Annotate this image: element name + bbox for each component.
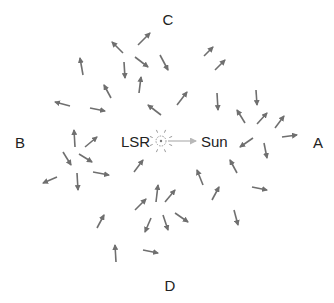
star-velocity-arrow (43, 177, 57, 183)
star-velocity-arrow (135, 199, 146, 210)
star-velocity-arrow (104, 85, 111, 98)
star-velocity-arrow (282, 135, 297, 137)
star-velocity-arrow (197, 170, 203, 185)
star-velocity-arrow (156, 185, 158, 202)
star-velocity-arrow (230, 160, 237, 173)
star-velocity-arrow (257, 113, 267, 124)
star-velocity-arrow (148, 105, 161, 115)
star-velocity-arrow (165, 190, 175, 202)
star-velocity-arrow (74, 130, 75, 147)
lsr-ray-icon (150, 144, 153, 145)
label-d: D (165, 277, 176, 294)
lsr-ray-icon (156, 130, 157, 133)
velocity-diagram: C D B A LSR Sun (0, 0, 334, 303)
label-b: B (15, 134, 25, 151)
star-velocity-arrow (143, 250, 158, 253)
label-c: C (163, 11, 174, 28)
label-a: A (313, 134, 323, 151)
star-velocity-arrow (135, 57, 148, 67)
lsr-ray-icon (164, 149, 165, 152)
lsr-ray-icon (150, 136, 153, 137)
star-velocity-arrow (139, 77, 141, 93)
star-velocity-arrow (240, 138, 253, 147)
star-velocity-arrow (177, 92, 187, 105)
star-velocity-arrow (77, 173, 78, 190)
star-velocity-arrow (163, 215, 168, 230)
star-velocity-arrow (215, 60, 225, 70)
label-lsr: LSR (121, 133, 150, 150)
star-velocity-arrow (138, 33, 150, 45)
label-sun: Sun (201, 133, 228, 150)
lsr-ray-icon (169, 144, 172, 145)
star-velocity-arrow (124, 62, 125, 78)
star-velocity-arrow (80, 58, 83, 75)
star-velocity-arrow (90, 108, 105, 111)
star-velocity-arrow (115, 245, 116, 262)
star-velocity-arrow (134, 160, 143, 172)
lsr-ray-icon (156, 149, 157, 152)
star-velocity-arrows (43, 33, 297, 262)
star-velocity-arrow (256, 90, 257, 105)
star-velocity-arrow (217, 93, 218, 110)
star-velocity-arrow (237, 110, 245, 123)
star-velocity-arrow (234, 210, 238, 225)
star-velocity-arrow (85, 137, 97, 147)
star-velocity-arrow (93, 172, 109, 175)
lsr-ray-icon (169, 136, 172, 137)
lsr-center-dot-icon (160, 140, 162, 142)
star-velocity-arrow (160, 55, 168, 70)
star-velocity-arrow (145, 218, 151, 232)
star-velocity-arrow (79, 154, 92, 162)
star-velocity-arrow (112, 42, 123, 53)
star-velocity-arrow (252, 187, 267, 190)
star-velocity-arrow (275, 116, 284, 128)
star-velocity-arrow (212, 187, 219, 200)
star-velocity-arrow (175, 213, 188, 222)
star-velocity-arrow (264, 143, 267, 158)
star-velocity-arrow (55, 102, 70, 106)
star-velocity-arrow (97, 215, 104, 228)
star-velocity-arrow (204, 47, 213, 56)
lsr-ray-icon (164, 130, 165, 133)
star-velocity-arrow (63, 152, 71, 165)
